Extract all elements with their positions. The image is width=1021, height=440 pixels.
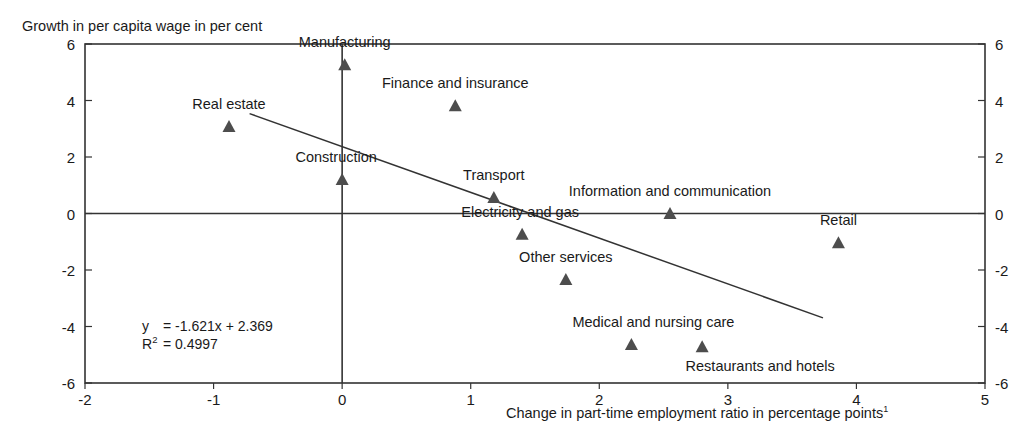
y-tick-label-left: -2: [62, 262, 75, 279]
data-point-label: Real estate: [192, 96, 265, 112]
data-point-marker: [338, 58, 351, 70]
regression-equation-rhs: = -1.621x + 2.369: [163, 318, 273, 334]
y-tick-label-right: -2: [995, 262, 1008, 279]
data-point-label: Finance and insurance: [382, 75, 529, 91]
data-point-label: Retail: [820, 212, 857, 228]
data-point-marker: [223, 120, 236, 132]
r-squared-value: = 0.4997: [163, 336, 218, 352]
r-squared-letter: R: [142, 336, 152, 352]
data-point-label: Electricity and gas: [461, 204, 579, 220]
y-tick-label-left: 4: [67, 92, 75, 109]
x-axis-title-footnote: 1: [883, 404, 888, 414]
y-tick-label-left: -6: [62, 375, 75, 392]
chart-plot-area: [0, 0, 1021, 440]
x-tick-label: 0: [338, 391, 346, 408]
x-tick-label: 5: [981, 391, 989, 408]
data-point-label: Manufacturing: [299, 34, 391, 50]
x-tick-label: -2: [78, 391, 91, 408]
data-point-label: Information and communication: [569, 183, 771, 199]
r-squared-lhs: R2: [142, 334, 163, 352]
y-tick-label-right: -4: [995, 318, 1008, 335]
regression-equation-row: y= -1.621x + 2.369: [142, 318, 273, 334]
r-squared-exponent: 2: [152, 334, 157, 345]
y-tick-label-left: -4: [62, 318, 75, 335]
data-point-marker: [696, 340, 709, 352]
y-tick-label-left: 0: [67, 205, 75, 222]
y-tick-label-right: 4: [995, 92, 1003, 109]
data-point-marker: [449, 99, 462, 111]
r-squared-row: R2= 0.4997: [142, 334, 273, 352]
regression-equation-lhs: y: [142, 318, 163, 334]
data-point-marker: [487, 191, 500, 203]
data-point-label: Construction: [295, 149, 376, 165]
y-tick-label-right: -6: [995, 375, 1008, 392]
data-point-label: Other services: [519, 249, 612, 265]
scatter-chart-figure: Growth in per capita wage in per cent -2…: [0, 0, 1021, 440]
data-point-label: Restaurants and hotels: [686, 358, 835, 374]
data-point-marker: [559, 273, 572, 285]
data-point-label: Medical and nursing care: [572, 314, 734, 330]
regression-annotation: y= -1.621x + 2.369 R2= 0.4997: [142, 318, 273, 352]
y-tick-label-right: 2: [995, 149, 1003, 166]
y-tick-label-right: 0: [995, 205, 1003, 222]
x-tick-label: 1: [467, 391, 475, 408]
x-tick-label: -1: [207, 391, 220, 408]
y-tick-label-left: 6: [67, 36, 75, 53]
data-point-marker: [336, 173, 349, 185]
data-point-marker: [516, 228, 529, 240]
x-axis-title-text: Change in part-time employment ratio in …: [506, 405, 883, 421]
y-tick-label-right: 6: [995, 36, 1003, 53]
x-axis-title: Change in part-time employment ratio in …: [506, 404, 888, 421]
data-point-marker: [625, 338, 638, 350]
y-tick-label-left: 2: [67, 149, 75, 166]
data-point-marker: [832, 236, 845, 248]
data-point-label: Transport: [463, 167, 525, 183]
